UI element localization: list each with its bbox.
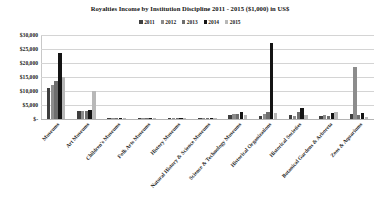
legend-label-2014: 2014 — [208, 19, 219, 25]
legend-label-2012: 2012 — [165, 19, 176, 25]
x-label-slot: Historical Organizations — [253, 119, 283, 211]
legend-entry-2014[interactable]: 2014 — [204, 19, 219, 25]
y-tick-label-0: $- — [0, 116, 38, 122]
x-label-slot: Folk Arts Museums — [132, 119, 162, 211]
legend-label-2011: 2011 — [144, 19, 154, 25]
y-tick-label-25000: $25,000 — [0, 46, 38, 52]
legend-swatch-2014 — [204, 20, 207, 23]
bar-cluster — [313, 35, 343, 119]
legend-entry-2012[interactable]: 2012 — [161, 19, 176, 25]
x-label-slot: Art Museums — [71, 119, 101, 211]
bar-cluster — [41, 35, 71, 119]
y-tick-label-5000: $5,000 — [0, 102, 38, 108]
legend-label-2013: 2013 — [187, 19, 198, 25]
bar-2014[interactable] — [270, 43, 273, 119]
x-label-slot: Museums — [41, 119, 71, 211]
chart-title: Royalties Income by Institution Discipli… — [0, 4, 380, 13]
bar-cluster — [162, 35, 192, 119]
legend-swatch-2011 — [139, 20, 142, 23]
bar-cluster — [344, 35, 374, 119]
x-axis-label: Museums — [41, 121, 61, 142]
legend-entry-2015[interactable]: 2015 — [225, 19, 240, 25]
legend-label-2015: 2015 — [230, 19, 241, 25]
bar-cluster — [102, 35, 132, 119]
bar-2012[interactable] — [353, 67, 356, 119]
y-tick-label-30000: $30,000 — [0, 32, 38, 38]
bars-layer — [41, 35, 374, 119]
legend-swatch-2012 — [161, 20, 164, 23]
royalties-income-bar-chart: Royalties Income by Institution Discipli… — [0, 0, 380, 215]
x-label-slot: Botanical Gardens & Arboreta — [313, 119, 343, 211]
bar-cluster — [253, 35, 283, 119]
bar-2015[interactable] — [334, 112, 337, 119]
bar-cluster — [192, 35, 222, 119]
bar-2015[interactable] — [62, 77, 65, 119]
legend-swatch-2013 — [182, 20, 185, 23]
bar-2015[interactable] — [92, 91, 95, 119]
chart-legend: 20112012201320142015 — [0, 19, 380, 25]
x-label-slot: Children's Museums — [102, 119, 132, 211]
bar-cluster — [283, 35, 313, 119]
y-axis-labels: $30,000$25,000$20,000$15,000$10,000$5,00… — [0, 35, 38, 119]
bar-cluster — [71, 35, 101, 119]
y-tick-label-10000: $10,000 — [0, 88, 38, 94]
legend-entry-2013[interactable]: 2013 — [182, 19, 197, 25]
x-axis-labels: MuseumsArt MuseumsChildren's MuseumsFolk… — [41, 119, 374, 211]
y-tick-label-15000: $15,000 — [0, 74, 38, 80]
y-tick-label-20000: $20,000 — [0, 60, 38, 66]
x-label-slot: Science & Technology Museums — [223, 119, 253, 211]
plot-frame — [41, 35, 374, 119]
legend-entry-2011[interactable]: 2011 — [139, 19, 154, 25]
bar-cluster — [132, 35, 162, 119]
bar-cluster — [223, 35, 253, 119]
legend-swatch-2015 — [225, 20, 228, 23]
x-label-slot: Zoos & Aquariums — [344, 119, 374, 211]
